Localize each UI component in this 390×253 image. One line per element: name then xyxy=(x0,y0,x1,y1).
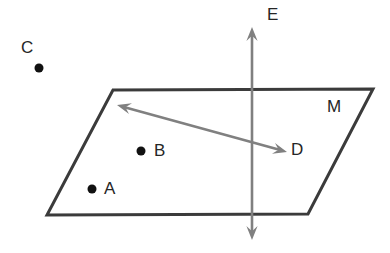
plane-m-outline xyxy=(47,89,373,215)
point-b-label: B xyxy=(154,142,165,159)
point-c-dot xyxy=(35,64,44,73)
point-a-label: A xyxy=(104,180,115,197)
geometry-diagram: C E M B D A xyxy=(0,0,390,253)
line-e-label: E xyxy=(267,6,278,23)
geometry-canvas xyxy=(0,0,390,253)
point-b-dot xyxy=(137,147,146,156)
line-d-label: D xyxy=(291,141,303,158)
point-a-dot xyxy=(88,185,97,194)
plane-m-label: M xyxy=(327,98,341,115)
point-c-label: C xyxy=(21,39,33,56)
